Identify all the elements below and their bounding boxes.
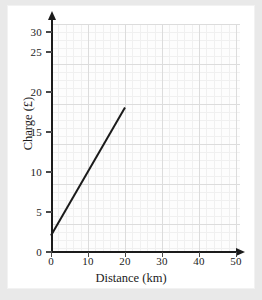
y-tick: [46, 131, 52, 132]
x-axis-title: Distance (km): [8, 271, 254, 286]
y-tick: [46, 211, 52, 212]
x-tick-label: 30: [148, 255, 176, 267]
y-tick: [46, 51, 52, 52]
plot-area: [51, 24, 240, 252]
y-tick: [46, 171, 52, 172]
arrow-up-icon: [48, 11, 56, 20]
y-tick: [46, 91, 52, 92]
x-tick-label: 10: [74, 255, 102, 267]
x-axis-line: [51, 251, 237, 253]
x-tick-label: 20: [111, 255, 139, 267]
chart-sheet: 0 5 10 15 20 25 30 0 10 20 30 40 50 Dist…: [8, 6, 254, 288]
x-tick-label: 0: [37, 255, 65, 267]
y-axis-line: [51, 18, 53, 252]
y-axis-title: Charge (£): [21, 54, 36, 194]
x-tick-label: 50: [222, 255, 250, 267]
y-tick-label: 5: [16, 206, 42, 218]
y-tick: [46, 31, 52, 32]
y-tick-label: 30: [16, 26, 42, 38]
chart-figure: 0 5 10 15 20 25 30 0 10 20 30 40 50 Dist…: [8, 6, 254, 288]
x-tick-label: 40: [185, 255, 213, 267]
